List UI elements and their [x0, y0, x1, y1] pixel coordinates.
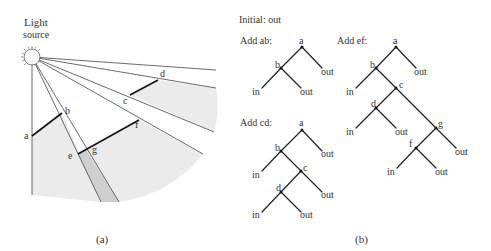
leaf: out	[300, 86, 313, 97]
node-d: d	[276, 182, 281, 193]
panel-a: Light source a b c d e f g (a)	[21, 16, 218, 246]
leaf: out	[321, 66, 334, 77]
node-c: c	[399, 79, 404, 90]
leaf: out	[435, 166, 448, 177]
node-a: a	[393, 35, 398, 46]
tree-title: Add ef:	[337, 35, 367, 46]
point-label-g: g	[92, 144, 97, 155]
point-label-a: a	[24, 130, 29, 141]
node-d: d	[371, 98, 376, 109]
leaf: out	[321, 148, 334, 159]
sun-icon	[21, 46, 40, 65]
node-g: g	[438, 118, 443, 129]
node-a: a	[299, 35, 304, 46]
leaf: in	[346, 126, 354, 137]
leaf: out	[321, 189, 334, 200]
initial-label: Initial: out	[239, 14, 281, 25]
point-label-b: b	[65, 105, 70, 116]
tree-title: Add cd:	[240, 117, 272, 128]
node-b: b	[275, 142, 280, 153]
point-label-e: e	[68, 150, 73, 161]
point-label-d: d	[160, 68, 165, 79]
leaf: in	[387, 166, 395, 177]
light-source-label-2: source	[23, 29, 50, 40]
leaf: out	[414, 66, 427, 77]
light-source-label: Light	[24, 16, 48, 28]
tree-add-cd: Add cd: a b c d out in out in ou	[240, 117, 334, 220]
caption-a: (a)	[96, 233, 109, 246]
figure-canvas: Light source a b c d e f g (a) Initial: …	[0, 0, 491, 251]
node-b: b	[370, 59, 375, 70]
leaf: out	[455, 146, 468, 157]
point-label-c: c	[123, 95, 128, 106]
node-a: a	[299, 117, 304, 128]
tree-title: Add ab:	[240, 35, 272, 46]
leaf: in	[252, 209, 260, 220]
panel-b: Initial: out Add ab: a b out in out Add …	[239, 14, 468, 246]
leaf: in	[346, 86, 354, 97]
node-f: f	[409, 138, 413, 149]
leaf: in	[252, 169, 260, 180]
leaf: out	[395, 126, 408, 137]
caption-b: (b)	[355, 233, 368, 246]
tree-add-ab: Add ab: a b out in out	[240, 35, 334, 97]
node-c: c	[303, 162, 308, 173]
leaf: out	[300, 209, 313, 220]
tree-add-ef: Add ef: a b c	[337, 35, 468, 177]
leaf: in	[252, 86, 260, 97]
node-b: b	[275, 59, 280, 70]
